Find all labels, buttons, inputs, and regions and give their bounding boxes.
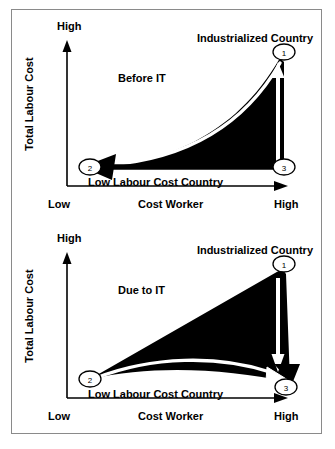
panel-due-to-it: 1 2 3 High Total Labour Cost Industriali… — [12, 222, 323, 434]
figure-root: 1 2 3 High Total Labour Cost Industriali… — [0, 0, 335, 449]
x-axis-title-2: Cost Worker — [138, 410, 203, 422]
top-cropped-artifact — [0, 0, 335, 8]
x-axis-low-label-2: Low — [48, 410, 70, 422]
node-marker-2-top: 2 — [79, 159, 101, 175]
region-label-before-it: Before IT — [118, 72, 166, 84]
x-axis-title: Cost Worker — [138, 198, 203, 210]
node-marker-1-top: 1 — [273, 44, 295, 60]
panel-before-it: 1 2 3 High Total Labour Cost Industriali… — [12, 10, 323, 222]
node-marker-3-top: 3 — [273, 159, 295, 175]
node-marker-2-bottom: 2 — [79, 371, 101, 387]
node-marker-1-bottom: 1 — [273, 256, 295, 272]
figure-frame: 1 2 3 High Total Labour Cost Industriali… — [11, 9, 322, 434]
annotation-industrialized-2: Industrialized Country — [197, 244, 313, 256]
annotation-low-labour-2: Low Labour Cost Country — [88, 388, 223, 400]
region-label-due-to-it: Due to IT — [118, 284, 165, 296]
svg-text:1: 1 — [282, 49, 287, 58]
y-axis-title: Total Labour Cost — [23, 54, 35, 154]
y-axis-arrowhead-bottom — [63, 252, 72, 264]
svg-text:2: 2 — [88, 164, 93, 173]
y-axis-arrowhead-top — [63, 40, 72, 52]
node-marker-3-bottom: 3 — [275, 379, 297, 395]
svg-text:3: 3 — [282, 164, 287, 173]
y-axis-high-label-2: High — [57, 232, 81, 244]
y-axis-title-2: Total Labour Cost — [23, 266, 35, 366]
svg-text:2: 2 — [88, 376, 93, 385]
x-axis-arrowhead-top — [274, 181, 288, 191]
annotation-low-labour: Low Labour Cost Country — [88, 176, 223, 188]
x-axis-high-label: High — [274, 198, 298, 210]
y-axis-high-label: High — [57, 20, 81, 32]
svg-text:3: 3 — [284, 384, 289, 393]
x-axis-low-label: Low — [48, 198, 70, 210]
x-axis-high-label-2: High — [274, 410, 298, 422]
annotation-industrialized: Industrialized Country — [197, 32, 313, 44]
svg-text:1: 1 — [282, 261, 287, 270]
